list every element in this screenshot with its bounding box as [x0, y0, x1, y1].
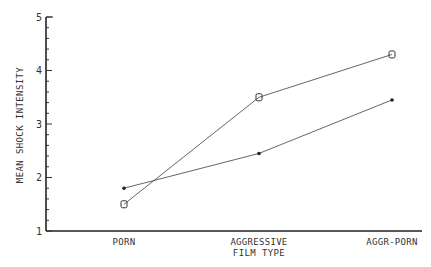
series-o-markers [121, 51, 395, 208]
y-axis-title: MEAN SHOCK INTENSITY [15, 67, 25, 184]
y-tick-label-2: 2 [36, 172, 42, 183]
series-line [124, 54, 392, 204]
data-point-star-marker [122, 186, 126, 190]
data-point-star-marker [390, 98, 394, 102]
y-tick-labels: 5 4 3 2 1 [36, 12, 42, 237]
axes [46, 17, 422, 231]
x-category-labels: PORN AGGRESSIVE AGGR-PORN [113, 237, 418, 247]
series-line [124, 100, 392, 188]
data-point-star-marker [257, 152, 261, 156]
series-star-markers [122, 98, 394, 190]
x-category-porn: PORN [113, 237, 136, 247]
x-category-aggr-porn: AGGR-PORN [366, 237, 417, 247]
y-ticks [46, 17, 52, 231]
y-tick-label-1: 1 [36, 226, 42, 237]
y-tick-label-5: 5 [36, 12, 42, 23]
y-tick-label-3: 3 [36, 119, 42, 130]
y-tick-label-4: 4 [36, 65, 42, 76]
x-category-aggressive: AGGRESSIVE [230, 237, 287, 247]
x-axis-title: FILM TYPE [233, 248, 285, 258]
line-chart: MEAN SHOCK INTENSITY 5 4 3 2 1 PORN AGGR… [0, 0, 431, 267]
series-group [121, 51, 395, 208]
